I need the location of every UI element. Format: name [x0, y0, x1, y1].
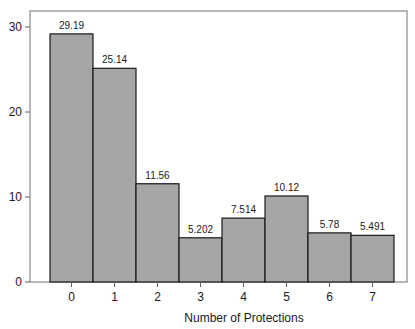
bar-3	[179, 238, 222, 282]
x-tick-label: 0	[68, 290, 75, 304]
x-tick-label: 6	[326, 290, 333, 304]
x-tick-label: 4	[240, 290, 247, 304]
bar-value-label: 5.202	[188, 224, 213, 235]
bars-group: 29.1925.1411.565.2027.51410.125.785.491	[50, 20, 394, 282]
bar-value-label: 5.78	[320, 219, 340, 230]
bar-5	[265, 196, 308, 282]
bar-value-label: 25.14	[102, 54, 127, 65]
histogram-chart: 0102030 29.1925.1411.565.2027.51410.125.…	[0, 0, 415, 329]
x-tick-label: 3	[197, 290, 204, 304]
bar-value-label: 5.491	[360, 221, 385, 232]
y-tick-label: 30	[9, 20, 23, 34]
x-axis: 01234567	[68, 282, 376, 304]
bar-2	[136, 184, 179, 282]
x-tick-label: 2	[154, 290, 161, 304]
x-tick-label: 5	[283, 290, 290, 304]
x-tick-label: 7	[369, 290, 376, 304]
y-axis: 0102030	[9, 20, 30, 289]
y-tick-label: 0	[15, 275, 22, 289]
bar-6	[308, 233, 351, 282]
bar-value-label: 10.12	[274, 182, 299, 193]
bar-value-label: 11.56	[145, 170, 170, 181]
bar-1	[93, 68, 136, 282]
bar-value-label: 29.19	[59, 20, 84, 31]
y-tick-label: 20	[9, 105, 23, 119]
bar-4	[222, 218, 265, 282]
y-tick-label: 10	[9, 190, 23, 204]
x-tick-label: 1	[111, 290, 118, 304]
bar-value-label: 7.514	[231, 204, 256, 215]
x-axis-title: Number of Protections	[184, 311, 303, 325]
bar-7	[351, 235, 394, 282]
bar-0	[50, 34, 93, 282]
